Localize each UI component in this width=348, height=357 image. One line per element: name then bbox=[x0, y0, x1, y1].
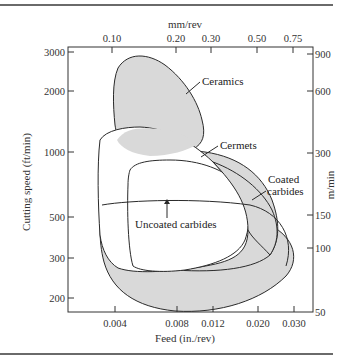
top-tick-label: 0.75 bbox=[284, 33, 302, 44]
top-axis-title: mm/rev bbox=[168, 18, 203, 30]
right-axis bbox=[307, 54, 313, 248]
bottom-tick-label: 0.004 bbox=[103, 318, 127, 329]
left-tick-label: 2000 bbox=[44, 86, 65, 97]
top-tick-label: 0.10 bbox=[103, 33, 121, 44]
label-coated-line1: Coated bbox=[268, 173, 300, 185]
left-tick-label: 300 bbox=[49, 253, 65, 264]
top-axis bbox=[112, 47, 293, 53]
right-axis-title: m/min bbox=[324, 170, 336, 199]
top-tick-label: 0.30 bbox=[202, 33, 220, 44]
left-axis bbox=[68, 52, 74, 298]
left-tick-label: 1000 bbox=[44, 147, 65, 158]
left-tick-label: 200 bbox=[49, 293, 65, 304]
right-tick-label: 300 bbox=[315, 148, 331, 159]
bottom-tick-label: 0.030 bbox=[282, 318, 306, 329]
chart: 0.10 0.20 0.30 0.50 0.75 mm/rev 0.004 0.… bbox=[0, 0, 348, 357]
right-tick-label: 600 bbox=[315, 86, 331, 97]
left-tick-label: 3000 bbox=[44, 47, 65, 58]
top-tick-label: 0.50 bbox=[248, 33, 266, 44]
right-tick-label: 900 bbox=[315, 49, 331, 60]
label-uncoated: Uncoated carbides bbox=[135, 218, 217, 230]
right-tick-label: 150 bbox=[315, 210, 331, 221]
bottom-tick-label: 0.012 bbox=[201, 318, 225, 329]
label-ceramics: Ceramics bbox=[202, 75, 244, 87]
bottom-axis-title: Feed (in./rev) bbox=[155, 332, 215, 345]
label-coated-line2: carbides bbox=[267, 185, 304, 197]
bottom-tick-label: 0.020 bbox=[246, 318, 270, 329]
right-tick-label: 100 bbox=[315, 243, 331, 254]
label-cermets: Cermets bbox=[220, 139, 257, 151]
bottom-tick-label: 0.008 bbox=[165, 318, 189, 329]
left-tick-label: 500 bbox=[49, 212, 65, 223]
leader-ceramics bbox=[186, 82, 200, 94]
right-tick-label: 50 bbox=[315, 307, 326, 318]
top-tick-label: 0.20 bbox=[167, 33, 185, 44]
left-axis-title: Cutting speed (ft/min) bbox=[20, 133, 33, 231]
